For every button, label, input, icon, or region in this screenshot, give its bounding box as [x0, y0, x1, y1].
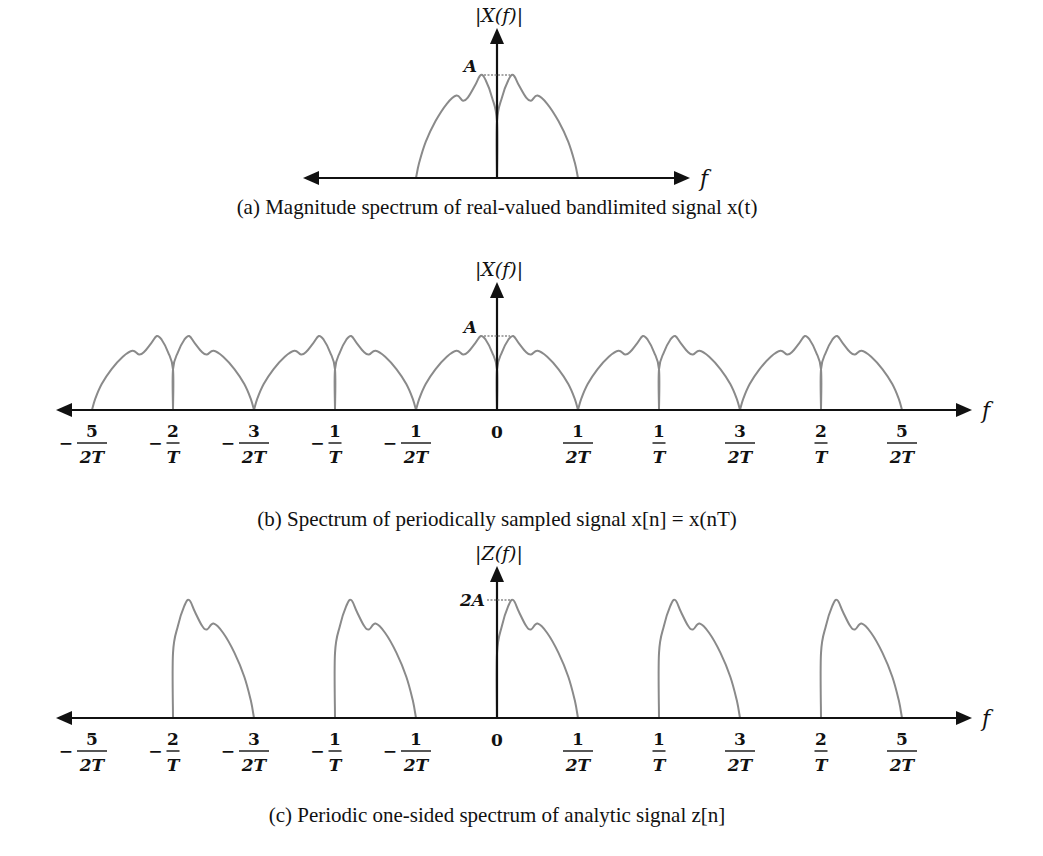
- svg-text:T: T: [653, 755, 667, 775]
- tick-labels: 52T−2T−32T−1T−12T−012T1T32T2T52T: [59, 729, 917, 775]
- tick-label: 52T−: [59, 421, 107, 467]
- svg-text:2T: 2T: [889, 755, 916, 775]
- level-label: A: [462, 317, 477, 337]
- spectrum-lobe: [578, 336, 659, 410]
- svg-text:3: 3: [248, 729, 260, 749]
- svg-text:2T: 2T: [565, 755, 592, 775]
- svg-text:T: T: [653, 447, 667, 467]
- svg-text:−: −: [59, 433, 73, 453]
- tick-label: 12T: [563, 729, 593, 775]
- svg-text:2T: 2T: [889, 447, 916, 467]
- spectrum-lobes: [173, 600, 902, 718]
- svg-text:2T: 2T: [403, 755, 430, 775]
- spectrum-lobe: [740, 336, 821, 410]
- svg-text:2T: 2T: [79, 755, 106, 775]
- svg-text:1: 1: [329, 421, 341, 441]
- svg-text:1: 1: [653, 729, 665, 749]
- svg-text:2T: 2T: [79, 447, 106, 467]
- spectrum-lobe: [659, 336, 740, 410]
- svg-text:5: 5: [86, 729, 98, 749]
- svg-text:−: −: [383, 741, 397, 761]
- svg-text:0: 0: [491, 730, 503, 750]
- panel-b-sampled-spectrum: f|X(f)|A52T−2T−32T−1T−12T−012T1T32T2T52T: [56, 258, 994, 467]
- spectrum-lobe: [821, 336, 902, 410]
- svg-text:1: 1: [653, 421, 665, 441]
- panel-c-analytic-spectrum: f|Z(f)|2A52T−2T−32T−1T−12T−012T1T32T2T52…: [56, 542, 994, 775]
- spectrum-lobe: [335, 600, 416, 718]
- arrow-up-icon: [490, 282, 504, 298]
- y-axis-label: |X(f)|: [475, 4, 523, 27]
- svg-text:−: −: [148, 741, 162, 761]
- tick-label: 12T−: [383, 729, 431, 775]
- caption-c: (c) Periodic one-sided spectrum of analy…: [269, 803, 726, 827]
- svg-text:T: T: [815, 447, 829, 467]
- svg-text:−: −: [59, 741, 73, 761]
- spectrum-lobe: [416, 75, 497, 178]
- svg-text:T: T: [815, 755, 829, 775]
- svg-text:T: T: [329, 447, 343, 467]
- tick-label: 32T−: [221, 421, 269, 467]
- spectrum-lobe: [254, 336, 335, 410]
- svg-text:3: 3: [734, 421, 746, 441]
- svg-text:2T: 2T: [565, 447, 592, 467]
- spectrum-lobe: [173, 336, 254, 410]
- svg-text:T: T: [167, 755, 181, 775]
- svg-text:2: 2: [167, 421, 179, 441]
- tick-label: 2T: [815, 421, 829, 467]
- tick-label: 32T: [725, 421, 755, 467]
- x-axis-label: f: [980, 398, 994, 423]
- arrow-left-icon: [56, 403, 72, 417]
- svg-text:T: T: [167, 447, 181, 467]
- tick-label: 1T: [653, 729, 667, 775]
- arrow-left-icon: [303, 171, 319, 185]
- spectrum-lobe: [92, 336, 173, 410]
- spectrum-lobe: [497, 600, 578, 718]
- svg-text:5: 5: [896, 421, 908, 441]
- y-axis-label: |X(f)|: [475, 258, 523, 281]
- svg-text:1: 1: [410, 729, 422, 749]
- arrow-up-icon: [490, 28, 504, 44]
- x-axis-label: f: [698, 166, 712, 191]
- spectrum-lobe: [173, 600, 254, 718]
- tick-label: 32T: [725, 729, 755, 775]
- svg-text:0: 0: [491, 422, 503, 442]
- svg-text:−: −: [310, 433, 324, 453]
- tick-label: 0: [491, 422, 503, 442]
- caption-a: (a) Magnitude spectrum of real-valued ba…: [237, 195, 758, 219]
- svg-text:2T: 2T: [241, 447, 268, 467]
- svg-text:1: 1: [329, 729, 341, 749]
- svg-text:5: 5: [896, 729, 908, 749]
- svg-text:2T: 2T: [727, 447, 754, 467]
- svg-text:1: 1: [410, 421, 422, 441]
- svg-text:−: −: [383, 433, 397, 453]
- svg-text:2T: 2T: [727, 755, 754, 775]
- svg-text:2: 2: [167, 729, 179, 749]
- spectrum-lobe: [335, 336, 416, 410]
- svg-text:1: 1: [572, 421, 584, 441]
- tick-label: 32T−: [221, 729, 269, 775]
- svg-text:5: 5: [86, 421, 98, 441]
- tick-label: 52T: [887, 729, 917, 775]
- tick-label: 2T−: [148, 421, 180, 467]
- svg-text:2T: 2T: [241, 755, 268, 775]
- arrow-up-icon: [490, 566, 504, 582]
- arrow-left-icon: [56, 711, 72, 725]
- x-axis-label: f: [980, 706, 994, 731]
- svg-text:2: 2: [815, 729, 827, 749]
- tick-label: 52T: [887, 421, 917, 467]
- caption-b: (b) Spectrum of periodically sampled sig…: [257, 507, 737, 531]
- tick-label: 12T−: [383, 421, 431, 467]
- arrow-right-icon: [956, 711, 972, 725]
- tick-label: 1T: [653, 421, 667, 467]
- arrow-right-icon: [674, 171, 690, 185]
- tick-label: 2T: [815, 729, 829, 775]
- tick-label: 12T: [563, 421, 593, 467]
- svg-text:3: 3: [248, 421, 260, 441]
- spectrum-lobe: [497, 336, 578, 410]
- spectrum-lobe: [659, 600, 740, 718]
- panel-a-magnitude-spectrum: f|X(f)|A: [303, 4, 712, 191]
- tick-label: 0: [491, 730, 503, 750]
- svg-text:3: 3: [734, 729, 746, 749]
- svg-text:2T: 2T: [403, 447, 430, 467]
- y-axis-label: |Z(f)|: [475, 542, 523, 565]
